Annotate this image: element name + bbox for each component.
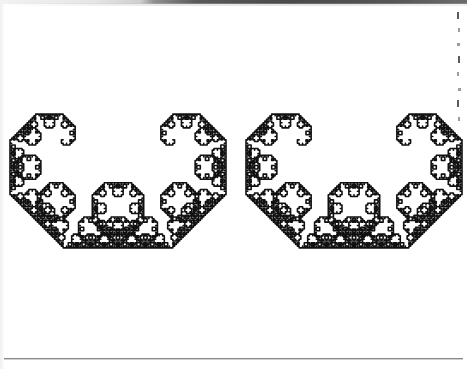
levy-c-curve-copy-1 bbox=[10, 114, 226, 248]
text-line-stub bbox=[457, 100, 459, 107]
fractal-figure bbox=[0, 0, 467, 369]
text-line-stub bbox=[458, 88, 461, 91]
text-line-stub bbox=[458, 56, 460, 63]
levy-c-curve-copy-2 bbox=[246, 114, 462, 248]
levy-c-curve-svg bbox=[0, 0, 467, 369]
text-line-stub bbox=[458, 117, 460, 121]
levy-c-curve-paths bbox=[10, 114, 462, 248]
text-line-stub bbox=[457, 12, 459, 19]
text-line-stub bbox=[457, 43, 460, 46]
page-bottom-rule-shadow bbox=[4, 359, 463, 360]
text-line-stub bbox=[458, 28, 460, 32]
scanned-page bbox=[0, 0, 467, 369]
right-margin-text-column-sliver bbox=[455, 8, 467, 126]
text-line-stub bbox=[457, 72, 459, 76]
